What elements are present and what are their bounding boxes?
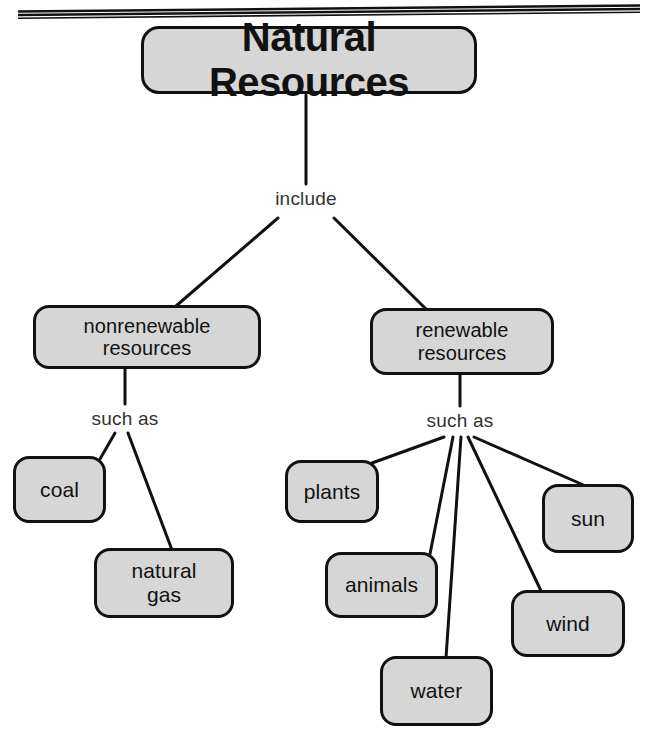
node-plants[interactable]: plants — [285, 460, 379, 523]
node-renewable-resources[interactable]: renewable resources — [370, 308, 554, 375]
connector-label-such-as-left: such as — [92, 408, 159, 430]
edge-suchas-to-natural-gas — [128, 433, 172, 550]
concept-map-page: Natural Resources include nonrenewable r… — [0, 0, 658, 748]
node-coal[interactable]: coal — [13, 456, 106, 523]
edge-suchas-to-sun — [474, 437, 588, 487]
node-wind[interactable]: wind — [511, 590, 625, 657]
connector-label-such-as-right: such as — [427, 410, 494, 432]
edge-suchas-to-wind — [468, 437, 542, 593]
edge-include-to-renewable — [334, 218, 426, 309]
edge-include-to-nonrenewable — [176, 218, 278, 306]
edge-suchas-to-water — [446, 437, 461, 658]
node-natural-gas[interactable]: natural gas — [94, 548, 234, 618]
node-water[interactable]: water — [380, 656, 493, 726]
node-sun[interactable]: sun — [542, 484, 634, 553]
edge-suchas-to-plants — [372, 437, 444, 463]
edge-suchas-to-animals — [430, 437, 453, 554]
connector-label-include: include — [275, 188, 337, 210]
node-animals[interactable]: animals — [325, 552, 438, 618]
edge-suchas-to-coal — [100, 433, 115, 459]
node-nonrenewable-resources[interactable]: nonrenewable resources — [33, 305, 261, 369]
node-natural-resources[interactable]: Natural Resources — [141, 26, 477, 94]
